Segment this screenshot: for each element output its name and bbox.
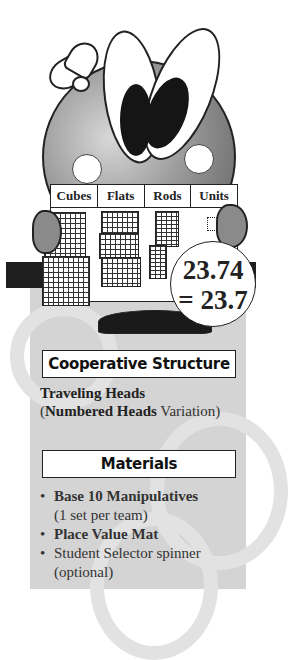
cooperative-structure-heading: Cooperative Structure [42, 350, 236, 378]
rounding-circle: 23.74 = 23.7 [170, 241, 256, 327]
cheek-right [184, 144, 214, 174]
rounding-value-original: 23.74 [171, 255, 255, 285]
structure-variation-name: Numbered Heads [45, 403, 157, 419]
mat-column-cubes: Cubes [51, 185, 98, 207]
cooperative-structure-text: Traveling Heads (Numbered Heads Variatio… [40, 384, 220, 420]
structure-name: Traveling Heads [40, 385, 145, 401]
materials-item: Student Selector spinner (optional) [40, 544, 201, 582]
mat-header: Cubes Flats Rods Units [51, 185, 237, 208]
materials-list: Base 10 Manipulatives (1 set per team) P… [40, 487, 201, 582]
flat-block [99, 233, 139, 259]
cube-block-bottom [42, 256, 90, 306]
materials-heading: Materials [42, 450, 236, 478]
rounding-value-result: = 23.7 [171, 285, 255, 315]
flat-block [101, 257, 141, 287]
rod-block [155, 211, 179, 247]
bow-knot [72, 76, 90, 92]
cheek-left [72, 154, 102, 184]
rod-block [149, 245, 167, 279]
materials-item: Base 10 Manipulatives (1 set per team) [40, 487, 201, 525]
mat-column-rods: Rods [145, 185, 192, 207]
flat-block [101, 211, 139, 235]
materials-item: Place Value Mat [40, 525, 201, 544]
hand-left [32, 210, 62, 254]
mat-column-flats: Flats [98, 185, 145, 207]
